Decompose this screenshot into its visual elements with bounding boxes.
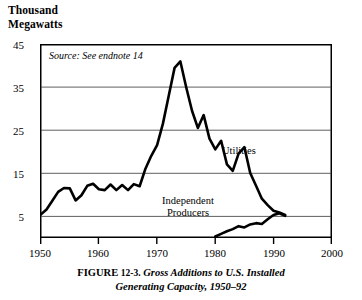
y-tick-45: 45 (0, 40, 24, 51)
x-tick-1960: 1960 (78, 248, 118, 259)
x-tick-1990: 1990 (254, 248, 294, 259)
series-label-independent-producers: Independent Producers (142, 195, 234, 219)
series-label-independent-line2: Producers (142, 207, 234, 219)
figure-caption: FIGURE 12-3. Gross Additions to U.S. Ins… (0, 266, 362, 293)
y-tick-35: 35 (0, 83, 24, 94)
x-axis-ticks (40, 237, 332, 245)
caption-line-1: FIGURE 12-3. Gross Additions to U.S. Ins… (0, 266, 362, 280)
y-axis-unit-label: Thousand Megawatts (8, 4, 63, 31)
figure-container: Thousand Megawatts 45 35 25 15 5 1950 19… (0, 0, 362, 300)
y-tick-5: 5 (0, 212, 24, 223)
series-label-utilities: Utilities (222, 145, 256, 157)
caption-number: 12-3. (121, 268, 141, 278)
caption-title-line2: Generating Capacity, 1950–92 (0, 280, 362, 293)
x-tick-1950: 1950 (20, 248, 60, 259)
caption-prefix: FIGURE (77, 267, 118, 278)
plot-area: Source: See endnote 14 Utilities Indepen… (40, 44, 332, 238)
series-label-independent-line1: Independent (142, 195, 234, 207)
x-tick-2000: 2000 (312, 248, 352, 259)
caption-title-line1: Gross Additions to U.S. Installed (143, 267, 284, 278)
source-note: Source: See endnote 14 (49, 50, 143, 62)
y-tick-15: 15 (0, 169, 24, 180)
x-tick-1970: 1970 (137, 248, 177, 259)
x-tick-1980: 1980 (195, 248, 235, 259)
y-tick-25: 25 (0, 126, 24, 137)
